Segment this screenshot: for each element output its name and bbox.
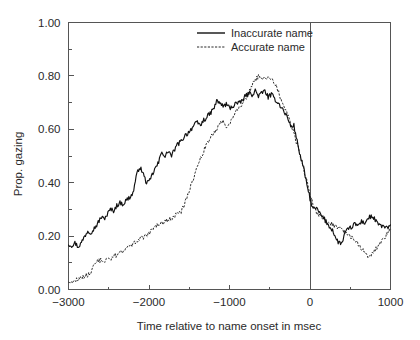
y-axis-tick-label: 0.00 — [38, 284, 60, 296]
x-axis-tick-label: −3000 — [52, 296, 84, 308]
y-axis-tick-label: 0.80 — [38, 70, 60, 82]
y-axis-tick-label: 0.40 — [38, 177, 60, 189]
y-axis-tick-label: 1.00 — [38, 17, 60, 29]
y-axis-tick-label: 0.60 — [38, 123, 60, 135]
y-axis-tick-label: 0.20 — [38, 230, 60, 242]
figure-container: −3000−2000−100001000 0.000.200.400.600.8… — [0, 0, 420, 340]
legend-label-accurate-name: Accurate name — [231, 41, 305, 53]
x-axis-tick-label: −1000 — [213, 296, 245, 308]
x-axis-tick-label: −2000 — [133, 296, 165, 308]
legend-label-inaccurate-name: Inaccurate name — [231, 27, 313, 39]
y-axis-title: Prop. gazing — [12, 132, 24, 197]
x-axis-tick-label: 0 — [307, 296, 313, 308]
gaze-proportion-line-chart: −3000−2000−100001000 0.000.200.400.600.8… — [0, 0, 420, 340]
x-axis-title: Time relative to name onset in msec — [137, 320, 322, 332]
x-axis-tick-label: 1000 — [378, 296, 404, 308]
